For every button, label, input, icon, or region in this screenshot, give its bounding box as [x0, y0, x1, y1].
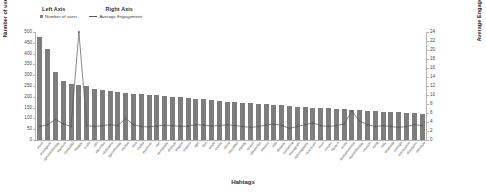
x-axis-tick-labels: #love#instagood#photooftheday#fashion#be…: [36, 141, 426, 179]
line-marker: [296, 126, 298, 128]
line-marker: [281, 125, 283, 127]
y-axis-left-tick-mark: [33, 118, 35, 119]
y-axis-right-title: Average Engagement: [476, 0, 482, 46]
line-marker: [367, 124, 369, 126]
y-axis-left-tick-mark: [33, 54, 35, 55]
y-axis-right-tick-mark: [427, 86, 429, 87]
y-axis-right-tick-mark: [427, 50, 429, 51]
y-axis-right-tick-label: 16: [430, 65, 456, 70]
line-marker: [94, 126, 96, 128]
line-marker: [218, 125, 220, 127]
y-axis-right-tick-mark: [427, 77, 429, 78]
line-marker: [374, 126, 376, 128]
line-marker: [109, 124, 111, 126]
y-axis-left-tick-label: 150: [2, 105, 32, 110]
y-axis-right-tick-mark: [427, 41, 429, 42]
legend-label-average-engagement: Average Engagement: [99, 14, 141, 19]
y-axis-right-tick-mark: [427, 113, 429, 114]
legend-right-axis-heading: Right Axis: [105, 6, 132, 12]
legend-entries: Number of users Average Engagement: [40, 14, 230, 19]
line-marker: [398, 127, 400, 129]
legend-item-number-of-users[interactable]: Number of users: [40, 14, 77, 19]
y-axis-left-tick-mark: [33, 108, 35, 109]
y-axis-right-tick-mark: [427, 122, 429, 123]
line-marker: [320, 125, 322, 127]
y-axis-left-tick-label: 400: [2, 51, 32, 56]
y-axis-right-tick-mark: [427, 59, 429, 60]
y-axis-right-tick-label: 18: [430, 56, 456, 61]
y-axis-left-tick-label: 350: [2, 61, 32, 66]
y-axis-left-tick-label: 450: [2, 40, 32, 45]
bar-swatch-icon: [40, 15, 43, 18]
line-series: [36, 32, 426, 140]
line-marker: [234, 125, 236, 127]
line-swatch-icon: [89, 16, 97, 17]
line-marker: [133, 124, 135, 126]
y-axis-right-tick-label: 6: [430, 110, 456, 115]
y-axis-left-tick-label: 500: [2, 29, 32, 34]
line-marker: [406, 126, 408, 128]
y-axis-right-tick-label: 2: [430, 128, 456, 133]
line-marker: [242, 126, 244, 128]
y-axis-left-tick-mark: [33, 129, 35, 130]
legend-item-average-engagement[interactable]: Average Engagement: [89, 14, 141, 19]
line-marker: [62, 123, 64, 125]
hashtag-engagement-chart: Left Axis Right Axis Number of users Ave…: [0, 0, 486, 195]
legend-headings: Left Axis Right Axis: [40, 6, 230, 12]
line-marker: [250, 127, 252, 129]
y-axis-right-tick-label: 10: [430, 92, 456, 97]
y-axis-right-tick-mark: [427, 95, 429, 96]
line-marker: [125, 118, 127, 120]
plot-area: [36, 32, 426, 140]
legend-left-axis-heading: Left Axis: [42, 6, 65, 12]
y-axis-right-tick-label: 22: [430, 38, 456, 43]
line-marker: [156, 125, 158, 127]
y-axis-right-tick-mark: [427, 32, 429, 33]
y-axis-left-tick-label: 200: [2, 94, 32, 99]
line-marker: [226, 124, 228, 126]
line-marker: [203, 124, 205, 126]
y-axis-left-tick-label: 100: [2, 115, 32, 120]
y-axis-left-tick-label: 300: [2, 72, 32, 77]
y-axis-right-tick-label: 12: [430, 83, 456, 88]
line-marker: [413, 124, 415, 126]
y-axis-left-tick-label: 50: [2, 126, 32, 131]
y-axis-left-tick-mark: [33, 32, 35, 33]
line-marker: [335, 125, 337, 127]
line-marker: [55, 118, 57, 120]
x-axis-title: Hahtags: [0, 179, 486, 185]
line-marker: [172, 125, 174, 127]
y-axis-left-tick-label: 250: [2, 83, 32, 88]
line-marker: [289, 127, 291, 129]
legend-label-number-of-users: Number of users: [45, 14, 77, 19]
line-marker: [421, 125, 423, 127]
line-marker: [390, 126, 392, 128]
line-marker: [211, 125, 213, 127]
line-marker: [39, 126, 41, 128]
line-marker: [328, 126, 330, 128]
line-marker: [273, 123, 275, 125]
y-axis-left-tick-mark: [33, 97, 35, 98]
line-marker: [265, 124, 267, 126]
y-axis-right-tick-mark: [427, 104, 429, 105]
line-marker: [78, 31, 80, 33]
line-marker: [164, 124, 166, 126]
line-marker: [312, 122, 314, 124]
y-axis-right-tick-label: 8: [430, 101, 456, 106]
line-marker: [117, 125, 119, 127]
line-marker: [148, 126, 150, 128]
line-marker: [86, 125, 88, 127]
y-axis-left-tick-mark: [33, 86, 35, 87]
line-marker: [187, 125, 189, 127]
line-marker: [351, 110, 353, 112]
y-axis-right-tick-mark: [427, 68, 429, 69]
y-axis-right-tick-mark: [427, 131, 429, 132]
y-axis-right-tick-mark: [427, 140, 429, 141]
line-marker: [195, 124, 197, 126]
y-axis-left-tick-mark: [33, 75, 35, 76]
chart-legend: Left Axis Right Axis Number of users Ave…: [40, 6, 230, 26]
line-marker: [179, 126, 181, 128]
y-axis-right-tick-label: 20: [430, 47, 456, 52]
line-marker: [343, 123, 345, 125]
line-marker: [70, 126, 72, 128]
